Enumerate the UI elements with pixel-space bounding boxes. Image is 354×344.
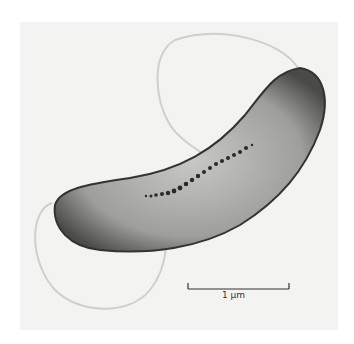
scale-bar-label: 1 μm bbox=[222, 290, 245, 300]
cell-body bbox=[55, 68, 325, 252]
micrograph bbox=[0, 0, 354, 344]
scale-bar bbox=[188, 283, 289, 289]
